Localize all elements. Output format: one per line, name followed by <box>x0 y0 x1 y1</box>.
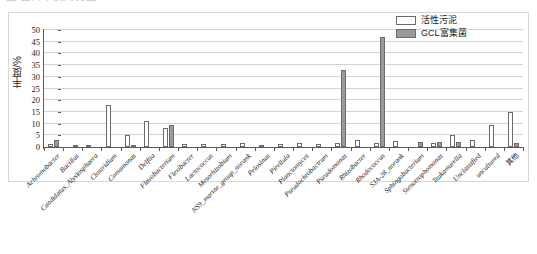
x-tick-mark <box>178 147 179 151</box>
bar-group <box>221 30 232 147</box>
bar-gcl-enriched <box>169 125 174 147</box>
bar-activated-sludge <box>240 143 245 147</box>
x-tick-mark <box>236 147 237 151</box>
bar-group <box>508 30 519 147</box>
y-tick-label: 10 <box>20 120 40 129</box>
x-tick-mark <box>293 147 294 151</box>
bar-group <box>316 30 327 147</box>
cropped-caption-strip: 图 菌群丰度对比图 <box>0 0 537 9</box>
bar-group <box>431 30 442 147</box>
bar-group <box>240 30 251 147</box>
x-tick-mark <box>63 147 64 151</box>
x-axis-line <box>43 147 524 148</box>
bar-activated-sludge <box>278 144 283 148</box>
x-tick-mark <box>523 147 524 151</box>
bar-group <box>470 30 481 147</box>
bar-group <box>201 30 212 147</box>
bar-group <box>163 30 174 147</box>
x-tick-mark <box>351 147 352 151</box>
bar-group <box>450 30 461 147</box>
bar-group <box>48 30 59 147</box>
bar-activated-sludge <box>144 121 149 147</box>
legend-label: 活性污泥 <box>421 14 457 26</box>
white-swatch <box>396 16 416 25</box>
x-tick-mark <box>504 147 505 151</box>
y-tick-label: 5 <box>20 131 40 140</box>
bar-activated-sludge <box>259 145 264 147</box>
y-tick-label: 40 <box>20 49 40 58</box>
bar-group <box>355 30 366 147</box>
x-tick-mark <box>255 147 256 151</box>
bar-group <box>144 30 155 147</box>
plot-area <box>44 30 523 147</box>
bar-gcl-enriched <box>54 140 59 147</box>
bar-activated-sludge <box>182 144 187 148</box>
bar-gcl-enriched <box>418 142 423 147</box>
x-tick-mark <box>44 147 45 151</box>
bar-gcl-enriched <box>380 37 385 147</box>
x-tick-mark <box>101 147 102 151</box>
x-tick-mark <box>312 147 313 151</box>
x-tick-mark <box>466 147 467 151</box>
bar-group <box>125 30 136 147</box>
bar-gcl-enriched <box>73 145 78 147</box>
bar-group <box>278 30 289 147</box>
bar-group <box>67 30 78 147</box>
bar-gcl-enriched <box>437 142 442 147</box>
x-tick-mark <box>140 147 141 151</box>
legend-label: GCL富集菌 <box>421 27 467 39</box>
bar-activated-sludge <box>125 135 130 147</box>
x-tick-mark <box>197 147 198 151</box>
x-tick-mark <box>82 147 83 151</box>
y-tick-label: 20 <box>20 96 40 105</box>
bar-group <box>393 30 404 147</box>
bar-activated-sludge <box>470 140 475 147</box>
bar-activated-sludge <box>106 105 111 147</box>
y-tick-label: 50 <box>20 26 40 35</box>
bar-activated-sludge <box>489 125 494 147</box>
gray-swatch <box>396 29 416 38</box>
bar-group <box>489 30 500 147</box>
y-tick-label: 0 <box>20 143 40 152</box>
x-tick-mark <box>216 147 217 151</box>
x-tick-mark <box>408 147 409 151</box>
legend-item: 活性污泥 <box>396 14 524 26</box>
legend-item: GCL富集菌 <box>396 27 524 39</box>
bar-activated-sludge <box>221 144 226 148</box>
y-tick-label: 45 <box>20 38 40 47</box>
bar-activated-sludge <box>431 143 436 147</box>
bar-activated-sludge <box>393 141 398 147</box>
bar-gcl-enriched <box>456 142 461 147</box>
bar-group <box>335 30 346 147</box>
bar-activated-sludge <box>48 144 53 147</box>
bar-gcl-enriched <box>131 145 136 147</box>
y-axis-ticks: 05101520253035404550 <box>14 0 40 254</box>
y-tick-label: 35 <box>20 61 40 70</box>
x-tick-mark <box>274 147 275 151</box>
bar-activated-sludge <box>355 140 360 147</box>
bar-activated-sludge <box>450 135 455 147</box>
bar-activated-sludge <box>374 143 379 147</box>
chart-legend: 活性污泥GCL富集菌 <box>396 14 524 40</box>
bar-activated-sludge <box>201 144 206 147</box>
bar-activated-sludge <box>335 143 340 147</box>
bar-group <box>182 30 193 147</box>
bar-activated-sludge <box>316 144 321 148</box>
x-tick-mark <box>485 147 486 151</box>
bar-gcl-enriched <box>514 143 519 147</box>
x-tick-mark <box>121 147 122 151</box>
bar-activated-sludge <box>297 143 302 147</box>
bar-activated-sludge <box>163 128 168 147</box>
bar-group <box>297 30 308 147</box>
y-tick-label: 15 <box>20 108 40 117</box>
x-tick-mark <box>389 147 390 151</box>
bar-activated-sludge <box>86 145 91 147</box>
bar-group <box>374 30 385 147</box>
y-tick-label: 25 <box>20 85 40 94</box>
figure-container: 图 菌群丰度对比图 丰度/% 05101520253035404550 Achr… <box>0 0 537 254</box>
y-tick-label: 30 <box>20 73 40 82</box>
bar-group <box>259 30 270 147</box>
x-tick-mark <box>446 147 447 151</box>
x-tick-mark <box>427 147 428 151</box>
x-tick-mark <box>159 147 160 151</box>
